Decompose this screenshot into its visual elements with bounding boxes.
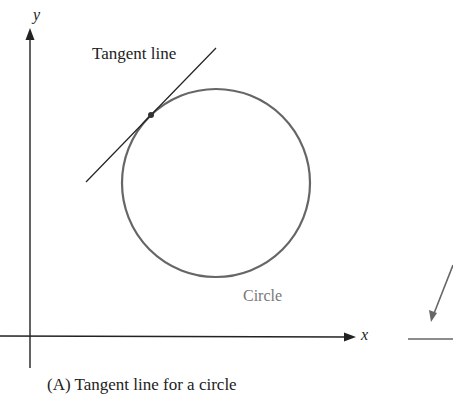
- x-axis-arrow-icon: [344, 333, 356, 342]
- y-axis-arrow-icon: [26, 28, 35, 40]
- x-axis-label: x: [361, 326, 368, 344]
- figure-caption: (A) Tangent line for a circle: [47, 375, 237, 395]
- tangent-line-label: Tangent line: [92, 44, 176, 64]
- y-axis-label: y: [33, 6, 40, 24]
- x-axis: [0, 336, 345, 337]
- tangent-point: [148, 112, 154, 118]
- circle-label: Circle: [243, 287, 282, 305]
- panel-b-arrow-head-icon: [429, 310, 437, 322]
- diagram-canvas: [0, 0, 453, 406]
- panel-b-arrow: [433, 265, 453, 316]
